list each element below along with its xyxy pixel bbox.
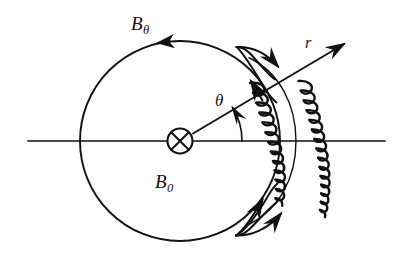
bottom-arrow-outward xyxy=(236,214,281,236)
bottom-loop-arrows xyxy=(236,184,281,236)
label-radius: r xyxy=(305,35,311,51)
poloidal-direction-arrowhead xyxy=(159,42,171,43)
label-poloidal-field: Bθ xyxy=(131,14,149,37)
label-axial-field-subscript: 0 xyxy=(167,181,174,195)
figure-root: Bθ B0 θ r xyxy=(0,0,409,264)
label-poloidal-field-base: B xyxy=(131,13,143,34)
label-axial-field-base: B xyxy=(155,171,167,192)
field-into-page-symbol xyxy=(168,129,193,154)
angle-arc xyxy=(233,108,243,142)
label-poloidal-field-subscript: θ xyxy=(143,23,150,37)
label-axial-field: B0 xyxy=(155,172,173,195)
magnetic-field-diagram xyxy=(0,0,409,264)
outer-helical-coil xyxy=(299,81,330,217)
inner-helical-coil xyxy=(250,83,285,206)
label-angle: θ xyxy=(215,92,223,109)
